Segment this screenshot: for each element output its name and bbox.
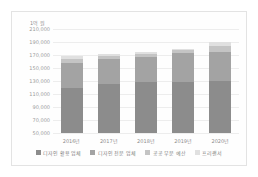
bar-segment[interactable] bbox=[172, 53, 194, 82]
y-axis-tick-label: 150,000 bbox=[29, 66, 50, 71]
legend-swatch bbox=[90, 150, 95, 155]
bar-segment[interactable] bbox=[135, 82, 157, 133]
bar-segment[interactable] bbox=[98, 84, 120, 133]
x-axis-tick-label: 2019년 bbox=[174, 137, 192, 144]
x-axis-tick-label: 2018년 bbox=[137, 137, 155, 144]
y-axis-tick-label: 90,000 bbox=[33, 105, 51, 110]
legend-label: 공공 부문 예산 bbox=[153, 149, 186, 156]
x-axis-tick-label: 2016년 bbox=[63, 137, 81, 144]
legend-item[interactable]: 공공 부문 예산 bbox=[145, 149, 186, 156]
bar-column[interactable]: 2020년 bbox=[209, 29, 231, 133]
legend-swatch bbox=[195, 150, 200, 155]
bar-segment[interactable] bbox=[61, 63, 83, 88]
chart-figure: 1억 원 210,000190,000170,000150,000130,000… bbox=[11, 11, 247, 166]
bar-column[interactable]: 2018년 bbox=[135, 29, 157, 133]
bar-group: 2016년2017년2018년2019년2020년 bbox=[53, 29, 239, 133]
bar-column[interactable]: 2017년 bbox=[98, 29, 120, 133]
legend-item[interactable]: 디자인 전문 업체 bbox=[90, 149, 136, 156]
gridline: 50,000 bbox=[53, 133, 239, 134]
legend-label: 프리랜서 bbox=[202, 149, 222, 156]
legend-swatch bbox=[36, 150, 41, 155]
legend-swatch bbox=[145, 150, 150, 155]
y-axis-tick-label: 130,000 bbox=[29, 79, 50, 84]
bar-segment[interactable] bbox=[172, 82, 194, 133]
x-axis-tick-label: 2017년 bbox=[100, 137, 118, 144]
y-axis-tick-label: 110,000 bbox=[29, 92, 50, 97]
y-axis-tick-label: 190,000 bbox=[29, 40, 50, 45]
y-axis-tick-label: 170,000 bbox=[29, 53, 50, 58]
chart-legend: 디자인 활용 업체디자인 전문 업체공공 부문 예산프리랜서 bbox=[12, 149, 246, 156]
legend-item[interactable]: 디자인 활용 업체 bbox=[36, 149, 82, 156]
bar-segment[interactable] bbox=[61, 88, 83, 134]
legend-item[interactable]: 프리랜서 bbox=[195, 149, 223, 156]
bar-segment[interactable] bbox=[209, 81, 231, 133]
legend-label: 디자인 활용 업체 bbox=[43, 149, 81, 156]
y-axis-tick-label: 70,000 bbox=[33, 118, 51, 123]
bar-segment[interactable] bbox=[98, 59, 120, 84]
bar-segment[interactable] bbox=[209, 52, 231, 81]
x-axis-tick-label: 2020년 bbox=[211, 137, 229, 144]
y-axis-tick-label: 50,000 bbox=[33, 131, 51, 136]
bar-segment[interactable] bbox=[135, 57, 157, 82]
plot-area: 210,000190,000170,000150,000130,000110,0… bbox=[53, 29, 239, 133]
y-axis-tick-label: 210,000 bbox=[29, 27, 50, 32]
bar-column[interactable]: 2016년 bbox=[61, 29, 83, 133]
bar-column[interactable]: 2019년 bbox=[172, 29, 194, 133]
legend-label: 디자인 전문 업체 bbox=[98, 149, 136, 156]
